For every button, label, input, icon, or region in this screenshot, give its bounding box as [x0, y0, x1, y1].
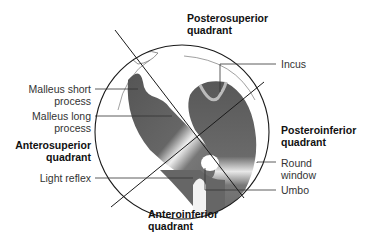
label-line: quadrant: [281, 136, 356, 148]
label-line: Anterosuperior: [15, 139, 91, 151]
label-line: process: [32, 122, 91, 134]
membrane-interior: [118, 52, 256, 225]
label-line: window: [281, 169, 316, 181]
label-round-window: Round window: [281, 157, 316, 181]
label-posterosuperior: Posterosuperior quadrant: [187, 12, 268, 36]
label-line: quadrant: [187, 24, 268, 36]
label-posteroinferior: Posteroinferior quadrant: [281, 124, 356, 148]
label-line: Posterosuperior: [187, 12, 268, 24]
label-light-reflex: Light reflex: [40, 172, 91, 184]
label-line: Malleus long: [32, 110, 91, 122]
label-line: Posteroinferior: [281, 124, 356, 136]
label-line: Round: [281, 157, 316, 169]
label-line: process: [29, 95, 91, 107]
label-anterosuperior: Anterosuperior quadrant: [15, 139, 91, 163]
label-line: quadrant: [15, 151, 91, 163]
label-incus: Incus: [281, 58, 306, 70]
label-umbo: Umbo: [281, 184, 309, 196]
label-malleus-short: Malleus short process: [29, 83, 91, 107]
label-malleus-long: Malleus long process: [32, 110, 91, 134]
label-anteroinferior: Anteroinferior quadrant: [148, 208, 218, 232]
label-line: Malleus short: [29, 83, 91, 95]
label-line: Anteroinferior: [148, 208, 218, 220]
label-line: quadrant: [148, 220, 218, 232]
